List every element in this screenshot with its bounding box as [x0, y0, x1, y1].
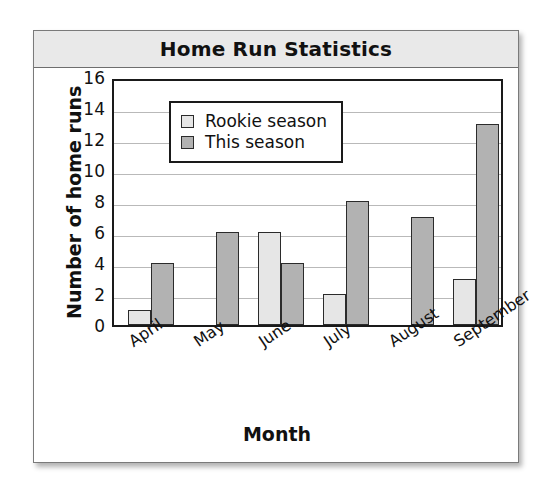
page-title: Home Run Statistics: [160, 37, 392, 61]
bar-group: [388, 81, 434, 325]
x-axis-title: Month: [34, 423, 520, 445]
legend-swatch-icon-this-season: [181, 136, 194, 149]
y-axis-tick-label: 16: [65, 70, 105, 87]
chart-title-bar: Home Run Statistics: [34, 31, 518, 68]
bar-june-rookie-season: [258, 232, 281, 325]
y-axis-tick-label: 8: [65, 194, 105, 211]
y-axis-tick-label: 2: [65, 287, 105, 304]
bar-group: [453, 81, 499, 325]
chart-legend: Rookie season This season: [169, 101, 343, 163]
y-axis-tick-label: 10: [65, 163, 105, 180]
y-axis-tick-label: 6: [65, 225, 105, 242]
y-axis-tick-label: 14: [65, 101, 105, 118]
y-axis-tick-label: 0: [65, 318, 105, 335]
y-axis-tick-label: 4: [65, 256, 105, 273]
legend-swatch-icon-rookie-season: [181, 115, 194, 128]
chart-card: Home Run Statistics Number of home runs …: [33, 30, 519, 463]
plot-area: Rookie season This season: [112, 79, 503, 327]
bar-group: [128, 81, 174, 325]
bar-may-this-season: [216, 232, 239, 325]
legend-label-this-season: This season: [205, 132, 305, 152]
bar-september-this-season: [476, 124, 499, 326]
y-axis-tick-label: 12: [65, 132, 105, 149]
bar-july-this-season: [346, 201, 369, 325]
legend-item-this-season: This season: [181, 132, 327, 152]
legend-label-rookie-season: Rookie season: [205, 111, 327, 131]
legend-item-rookie-season: Rookie season: [181, 111, 327, 131]
chart-region: Number of home runs 1614121086420 Rookie…: [34, 68, 520, 464]
